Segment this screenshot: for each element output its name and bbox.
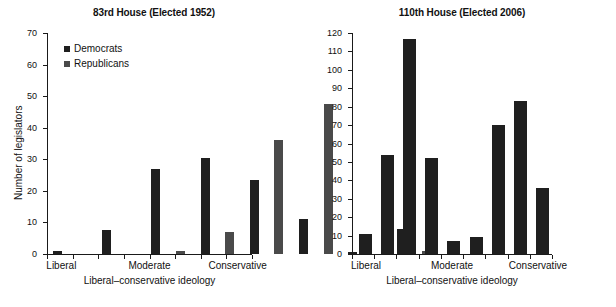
bar [201, 158, 210, 254]
x-axis-line-right [352, 254, 552, 255]
bar [470, 237, 483, 254]
y-tick: 30 [348, 199, 352, 200]
x-tick [530, 255, 531, 259]
x-tick [374, 255, 375, 259]
bar [225, 232, 234, 254]
y-tick-label: 60 [27, 60, 37, 69]
x-tick [552, 255, 553, 259]
figure-root: 83rd House (Elected 1952) Number of legi… [0, 0, 616, 307]
y-tick-label: 90 [332, 84, 342, 93]
y-tick: 70 [348, 125, 352, 126]
y-tick-label: 30 [27, 155, 37, 164]
legend-label-democrats: Democrats [74, 44, 122, 54]
x-tick [226, 255, 227, 259]
legend-swatch-republicans-icon [64, 61, 70, 67]
x-tick [441, 255, 442, 259]
y-tick-label: 30 [332, 194, 342, 203]
x-category-label: Conservative [509, 260, 567, 271]
bar [447, 241, 460, 254]
y-tick-label: 70 [332, 121, 342, 130]
bar [151, 169, 160, 254]
y-tick-label: 0 [32, 250, 37, 259]
x-category-label: Conservative [208, 260, 266, 271]
x-category-label: Moderate [128, 260, 170, 271]
x-category-label: Liberal [46, 260, 76, 271]
bar [381, 155, 394, 254]
bar [359, 234, 372, 254]
y-tick: 60 [43, 65, 47, 66]
y-tick-label: 110 [328, 47, 342, 56]
y-tick: 80 [348, 107, 352, 108]
y-tick-label: 10 [27, 218, 37, 227]
legend-item-republicans: Republicans [64, 57, 129, 70]
x-tick [485, 255, 486, 259]
y-axis-line-left [47, 33, 48, 255]
x-tick [252, 255, 253, 259]
x-tick [124, 255, 125, 259]
y-tick: 10 [348, 236, 352, 237]
x-tick [396, 255, 397, 259]
x-tick [73, 255, 74, 259]
bar [176, 251, 185, 254]
x-category-label: Moderate [431, 260, 473, 271]
y-tick: 50 [43, 96, 47, 97]
x-tick [175, 255, 176, 259]
bar [53, 251, 62, 254]
x-axis-title-right: Liberal–conservative ideology [386, 275, 518, 286]
y-tick-label: 60 [332, 139, 342, 148]
bar [536, 188, 549, 254]
bar [514, 101, 527, 254]
legend-left: Democrats Republicans [64, 42, 129, 72]
legend-swatch-democrats-icon [64, 46, 70, 52]
y-tick: 50 [348, 162, 352, 163]
y-tick-label: 40 [27, 123, 37, 132]
y-tick: 100 [348, 70, 352, 71]
y-tick-label: 20 [27, 186, 37, 195]
y-tick-label: 10 [332, 231, 342, 240]
x-tick [150, 255, 151, 259]
bar [492, 125, 505, 254]
x-tick [419, 255, 420, 259]
legend-item-democrats: Democrats [64, 42, 129, 55]
x-tick [508, 255, 509, 259]
x-tick [201, 255, 202, 259]
y-tick: 90 [348, 88, 352, 89]
x-tick [352, 255, 353, 259]
bar [102, 230, 111, 254]
chart-title-left: 83rd House (Elected 1952) [0, 7, 308, 18]
y-tick: 10 [43, 222, 47, 223]
bar [274, 140, 283, 254]
x-category-label: Liberal [351, 260, 381, 271]
x-tick [47, 255, 48, 259]
y-tick-label: 0 [337, 250, 342, 259]
bar [250, 180, 259, 254]
bar [425, 158, 438, 254]
y-tick: 40 [348, 180, 352, 181]
y-tick: 20 [348, 217, 352, 218]
y-axis-line-right [352, 33, 353, 255]
x-axis-title-left: Liberal–conservative ideology [84, 275, 216, 286]
x-tick [463, 255, 464, 259]
x-tick [98, 255, 99, 259]
y-tick-label: 100 [327, 65, 342, 74]
y-tick: 120 [348, 33, 352, 34]
bar [403, 39, 416, 254]
bar [299, 219, 308, 254]
y-tick-label: 120 [327, 29, 342, 38]
y-tick-label: 20 [332, 213, 342, 222]
chart-panel-83rd-house: 83rd House (Elected 1952) Number of legi… [0, 0, 308, 307]
y-tick: 70 [43, 33, 47, 34]
y-tick: 60 [348, 144, 352, 145]
plot-area-right: 0102030405060708090100110120 LiberalMode… [352, 33, 552, 255]
y-tick-label: 50 [27, 92, 37, 101]
y-tick: 20 [43, 191, 47, 192]
y-tick-label: 70 [27, 29, 37, 38]
y-tick: 110 [348, 51, 352, 52]
legend-label-republicans: Republicans [74, 59, 129, 69]
y-tick: 40 [43, 128, 47, 129]
y-axis-title-left: Number of legislators [13, 106, 24, 200]
y-tick-label: 80 [332, 102, 342, 111]
y-tick: 30 [43, 159, 47, 160]
y-tick-label: 40 [332, 176, 342, 185]
y-tick-label: 50 [332, 157, 342, 166]
